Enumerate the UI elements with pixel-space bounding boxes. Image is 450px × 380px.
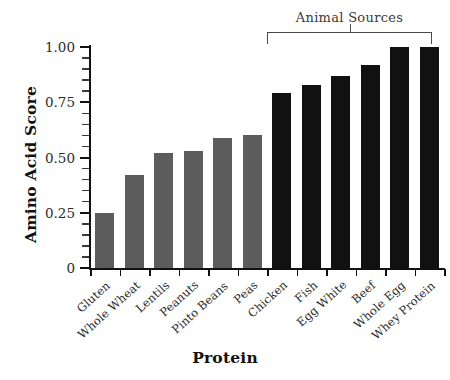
x-tick xyxy=(415,269,417,276)
y-tick-minor xyxy=(82,201,89,203)
bar xyxy=(125,175,144,268)
bar xyxy=(331,76,350,268)
y-tick-minor xyxy=(82,234,89,236)
x-tick xyxy=(149,269,151,276)
x-tick xyxy=(356,269,358,276)
y-tick-label: 0 xyxy=(66,260,75,276)
x-tick xyxy=(326,269,328,276)
bracket-top-line xyxy=(267,32,432,33)
y-tick-minor xyxy=(82,57,89,59)
y-tick-label: 0.25 xyxy=(45,205,75,221)
y-tick-minor xyxy=(82,245,89,247)
bar xyxy=(213,138,232,268)
x-tick xyxy=(297,269,299,276)
y-tick-minor xyxy=(82,79,89,81)
y-tick-minor xyxy=(82,190,89,192)
bar xyxy=(302,85,321,268)
y-tick-minor xyxy=(82,124,89,126)
y-tick-minor xyxy=(82,146,89,148)
annotation-label: Animal Sources xyxy=(267,10,432,25)
bar xyxy=(420,47,439,268)
animal-sources-bracket xyxy=(267,32,432,45)
y-tick-minor xyxy=(82,168,89,170)
x-axis-title: Protein xyxy=(0,348,450,367)
y-tick-minor xyxy=(82,256,89,258)
bar xyxy=(154,153,173,268)
bar xyxy=(272,93,291,268)
x-tick xyxy=(179,269,181,276)
bracket-right-arm xyxy=(431,32,432,44)
bar xyxy=(361,65,380,268)
plot-area xyxy=(90,47,444,268)
x-tick xyxy=(267,269,269,276)
y-tick-minor xyxy=(82,113,89,115)
x-tick xyxy=(120,269,122,276)
x-tick xyxy=(385,269,387,276)
y-tick-minor xyxy=(82,179,89,181)
bar xyxy=(390,47,409,268)
x-tick xyxy=(208,269,210,276)
y-tick-minor xyxy=(82,68,89,70)
x-tick xyxy=(90,269,92,276)
y-tick-minor xyxy=(82,223,89,225)
x-tick xyxy=(238,269,240,276)
bar xyxy=(243,135,262,268)
y-tick-label: 0.75 xyxy=(45,94,75,110)
bar xyxy=(95,213,114,268)
bracket-center-stem xyxy=(350,24,351,32)
y-tick-label: 0.50 xyxy=(45,150,75,166)
y-tick-minor xyxy=(82,90,89,92)
bar xyxy=(184,151,203,268)
y-axis-title: Amino Acid Score xyxy=(21,65,40,265)
y-tick-minor xyxy=(82,135,89,137)
x-tick xyxy=(444,269,446,276)
y-tick-label: 1.00 xyxy=(45,39,75,55)
bracket-left-arm xyxy=(267,32,268,44)
bar-chart: Amino Acid Score 00.250.500.751.00 Glute… xyxy=(0,0,450,380)
